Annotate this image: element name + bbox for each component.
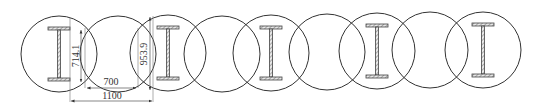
ibeam-3 [157,26,179,80]
ibeam-bottom-flange [48,78,70,81]
ibeam-web [376,27,379,75]
ibeam-top-flange [366,24,388,27]
steel-ibeams [48,23,494,81]
ibeam-web [270,29,273,77]
dimension-inner-span-label: 700 [104,76,119,87]
ibeam-7 [366,24,388,78]
ibeam-bottom-flange [472,74,494,77]
ibeam-top-flange [472,23,494,26]
dimension-chord-left-label: 714.1 [70,45,81,68]
ibeam-web [482,26,485,74]
ibeam-top-flange [157,26,179,29]
dimension-annotations: 714.1 953.9 700 1100 [70,16,153,102]
pile-circle-4 [184,16,260,92]
ibeam-5 [260,26,282,80]
ibeam-bottom-flange [366,75,388,78]
ibeam-9 [472,23,494,77]
dimension-chord-right-label: 953.9 [138,43,149,66]
pile-layout-diagram: 714.1 953.9 700 1100 [0,0,540,108]
ibeam-web [58,30,61,78]
ibeam-top-flange [260,26,282,29]
ibeam-web [167,29,170,77]
ibeam-top-flange [48,27,70,30]
pile-circle-6 [289,14,365,90]
dimension-pile-spacing-label: 1100 [102,90,122,101]
pile-circle-8 [392,12,468,88]
ibeam-bottom-flange [157,77,179,80]
ibeam-bottom-flange [260,77,282,80]
ibeam-1 [48,27,70,81]
